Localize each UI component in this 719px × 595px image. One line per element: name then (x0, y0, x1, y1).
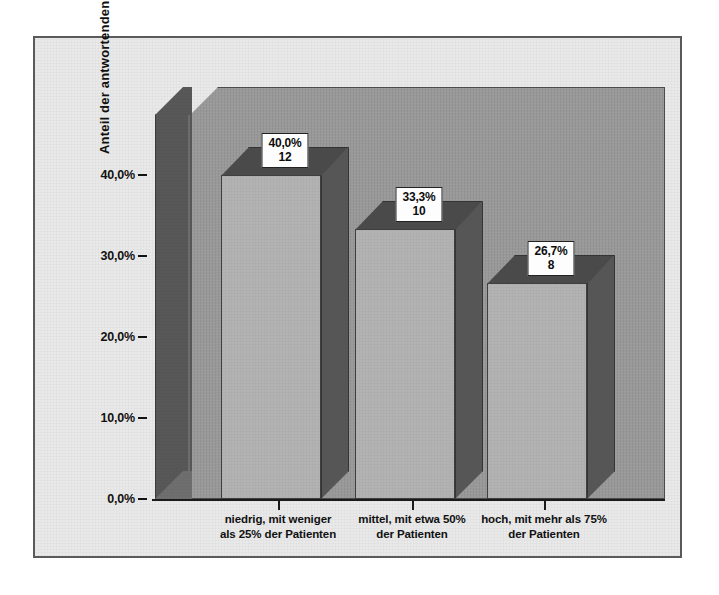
data-label-count: 10 (402, 204, 435, 218)
chart-screenshot: Anteil der antwortenden Mitarbeiter 0,0%… (0, 0, 719, 595)
y-axis-tick-label: 30,0% (101, 249, 135, 263)
x-axis-label-line: mittel, mit etwa 50% (337, 512, 487, 527)
bar-side-face (587, 255, 615, 499)
x-axis-tick-label: hoch, mit mehr als 75%der Patienten (469, 512, 619, 542)
x-axis-label-line: der Patienten (337, 527, 487, 542)
bar (355, 87, 455, 499)
x-axis-tick-mark (278, 501, 280, 510)
x-axis-label-line: hoch, mit mehr als 75% (469, 512, 619, 527)
bar-side-face (455, 201, 483, 499)
y-axis-tick: 30,0% (83, 249, 147, 263)
chart-frame: Anteil der antwortenden Mitarbeiter 0,0%… (33, 36, 682, 558)
data-label-count: 8 (534, 258, 567, 272)
y-axis-tick-mark (138, 336, 147, 338)
y-axis-tick-label: 20,0% (101, 330, 135, 344)
x-axis-label-line: als 25% der Patienten (203, 527, 353, 542)
data-label: 33,3%10 (395, 187, 442, 222)
y-axis-tick: 0,0% (83, 492, 147, 506)
bar-front-face (221, 175, 321, 499)
x-axis-line (152, 499, 665, 501)
x-axis-tick-label: niedrig, mit wenigerals 25% der Patiente… (203, 512, 353, 542)
y-axis-ticks: 0,0%10,0%20,0%30,0%40,0% (83, 94, 155, 514)
x-axis-tick-label: mittel, mit etwa 50%der Patienten (337, 512, 487, 542)
data-label-percent: 40,0% (268, 136, 301, 150)
y-axis-tick-mark (138, 255, 147, 257)
y-axis-tick: 10,0% (83, 411, 147, 425)
data-label: 40,0%12 (261, 133, 308, 168)
bar (487, 87, 587, 499)
y-axis-tick-label: 0,0% (107, 492, 135, 506)
plot-area (155, 87, 665, 499)
y-axis-tick-mark (138, 498, 147, 500)
data-label: 26,7%8 (527, 241, 574, 276)
x-axis-tick-mark (412, 501, 414, 510)
x-axis-tick-mark (544, 501, 546, 510)
data-label-percent: 26,7% (534, 244, 567, 258)
data-label-percent: 33,3% (402, 190, 435, 204)
bar-front-face (355, 229, 455, 499)
x-axis-label-line: der Patienten (469, 527, 619, 542)
y-axis-tick-mark (138, 174, 147, 176)
plot-wall-join (188, 115, 190, 499)
bar-front-face (487, 283, 587, 499)
y-axis-tick-label: 10,0% (101, 411, 135, 425)
y-axis-tick: 20,0% (83, 330, 147, 344)
bar-side-face (321, 147, 349, 499)
y-axis-tick-mark (138, 417, 147, 419)
x-axis-label-line: niedrig, mit weniger (203, 512, 353, 527)
y-axis-tick: 40,0% (83, 168, 147, 182)
data-label-count: 12 (268, 150, 301, 164)
y-axis-tick-label: 40,0% (101, 168, 135, 182)
